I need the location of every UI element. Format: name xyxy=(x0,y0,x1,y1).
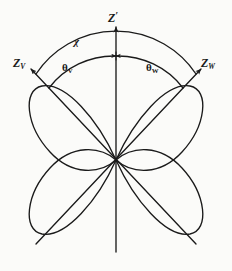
axis-line-zw xyxy=(36,69,201,244)
axis-label-z-v-sub: V xyxy=(20,62,25,71)
axis-label-z-w-sub: W xyxy=(208,62,215,71)
axis-label-z-prime: Z′ xyxy=(108,11,118,24)
axis-label-z-v: ZV xyxy=(13,57,25,70)
angle-label-theta-w-sub: W xyxy=(152,67,159,74)
lobe-w-lower xyxy=(29,150,116,235)
angle-label-theta-v-sub: V xyxy=(68,67,73,74)
angle-label-chi: χ xyxy=(74,36,79,47)
axis-label-z-prime-mark: ′ xyxy=(115,10,118,21)
lobe-v-lower xyxy=(116,150,203,235)
arc-theta-v xyxy=(49,56,116,88)
axis-line-zv xyxy=(31,69,196,244)
angle-label-theta-w: θW xyxy=(146,62,159,74)
lobe-v-upper xyxy=(29,86,116,171)
diagram-canvas xyxy=(0,0,232,271)
axis-label-z-w: ZW xyxy=(201,57,215,70)
lobe-w-upper xyxy=(116,86,203,171)
figure-root: Z′ ZV ZW χ θV θW xyxy=(0,0,232,271)
angle-label-theta-v: θV xyxy=(62,62,73,74)
